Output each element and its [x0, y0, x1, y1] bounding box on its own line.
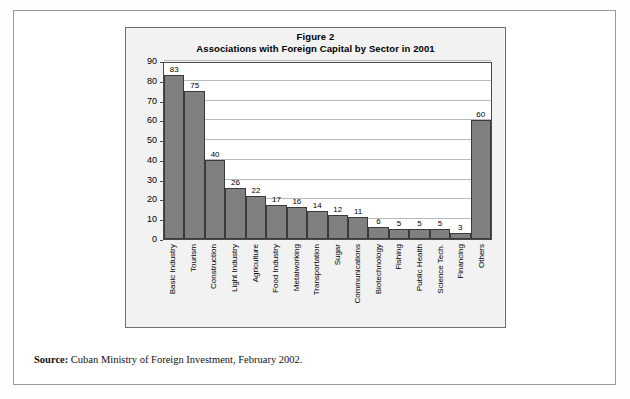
y-axis-tick-label: 50: [131, 136, 157, 145]
bar: [450, 233, 470, 239]
gridline: [164, 60, 491, 61]
bar-cell: 3: [450, 63, 470, 239]
bar: [409, 229, 429, 239]
source-note: Source: Cuban Ministry of Foreign Invest…: [34, 354, 302, 365]
bar-value-label: 60: [471, 110, 491, 119]
x-axis-labels: Basic IndustryTourismConstructionLight I…: [163, 242, 492, 330]
bar: [184, 91, 204, 239]
bar: [307, 211, 327, 239]
bar-value-label: 3: [450, 223, 470, 232]
bar: [328, 215, 348, 239]
x-axis-tick-label: Communications: [354, 244, 362, 304]
y-axis-tick-label: 70: [131, 97, 157, 106]
bar-cell: 12: [328, 63, 348, 239]
chart-subtitle: Associations with Foreign Capital by Sec…: [126, 43, 505, 55]
bar-series: 837540262217161412116555360: [164, 63, 491, 239]
x-axis-tick-label: Food Industry: [272, 244, 280, 293]
bar: [164, 75, 184, 239]
bar-cell: 11: [348, 63, 368, 239]
y-axis-tick-label: 20: [131, 195, 157, 204]
x-axis-label-cell: Basic Industry: [163, 242, 184, 330]
bar: [389, 229, 409, 239]
bar-value-label: 5: [389, 219, 409, 228]
bar-cell: 60: [471, 63, 491, 239]
y-axis-tick-label: 60: [131, 116, 157, 125]
y-axis-tick-label: 90: [131, 57, 157, 66]
bar: [246, 196, 266, 240]
x-axis-label-cell: Sugar: [328, 242, 349, 330]
x-axis-label-cell: Construction: [204, 242, 225, 330]
bar-cell: 22: [246, 63, 266, 239]
y-axis-tick-mark: [160, 240, 163, 241]
bar-value-label: 75: [184, 81, 204, 90]
source-value: Cuban Ministry of Foreign Investment, Fe…: [71, 354, 303, 365]
x-axis-label-cell: Biotechnology: [369, 242, 390, 330]
bar-cell: 6: [368, 63, 388, 239]
bar: [348, 217, 368, 239]
bar-value-label: 17: [266, 195, 286, 204]
x-axis-tick-label: Light Industry: [231, 244, 239, 292]
bar-value-label: 5: [430, 219, 450, 228]
bar-cell: 5: [430, 63, 450, 239]
x-axis-tick-label: Biotechnology: [375, 244, 383, 294]
bar-cell: 5: [409, 63, 429, 239]
x-axis-tick-label: Sugar: [334, 244, 342, 265]
x-axis-label-cell: Science Tech.: [430, 242, 451, 330]
x-axis-label-cell: Financing: [451, 242, 472, 330]
bar: [205, 160, 225, 239]
bar: [225, 188, 245, 239]
bar: [368, 227, 388, 239]
bar-cell: 5: [389, 63, 409, 239]
plot-area: 837540262217161412116555360: [163, 62, 492, 240]
x-axis-label-cell: Light Industry: [225, 242, 246, 330]
x-axis-tick-label: Science Tech.: [437, 244, 445, 294]
bar: [430, 229, 450, 239]
y-axis-tick-label: 0: [131, 235, 157, 244]
bar-value-label: 22: [246, 186, 266, 195]
bar: [287, 207, 307, 239]
page-canvas: Figure 2 Associations with Foreign Capit…: [0, 0, 630, 399]
bar-value-label: 16: [287, 197, 307, 206]
bar-cell: 83: [164, 63, 184, 239]
y-axis-tick-label: 80: [131, 77, 157, 86]
y-axis-tick-label: 10: [131, 215, 157, 224]
y-axis-tick-label: 30: [131, 176, 157, 185]
chart-title: Figure 2: [126, 31, 505, 43]
chart-title-block: Figure 2 Associations with Foreign Capit…: [126, 31, 505, 55]
bar-value-label: 26: [225, 178, 245, 187]
bar-cell: 14: [307, 63, 327, 239]
bar-value-label: 11: [348, 207, 368, 216]
bar-value-label: 14: [307, 201, 327, 210]
x-axis-label-cell: Public Health: [410, 242, 431, 330]
x-axis-label-cell: Communications: [348, 242, 369, 330]
bar-cell: 26: [225, 63, 245, 239]
x-axis-label-cell: Metalworking: [286, 242, 307, 330]
bar-value-label: 12: [328, 205, 348, 214]
x-axis-label-cell: Others: [471, 242, 492, 330]
x-axis-label-cell: Food Industry: [266, 242, 287, 330]
x-axis-label-cell: Fishing: [389, 242, 410, 330]
x-axis-tick-label: Construction: [210, 244, 218, 289]
bar-value-label: 6: [368, 217, 388, 226]
x-axis-tick-label: Transportation: [313, 244, 321, 295]
bar-cell: 40: [205, 63, 225, 239]
source-label: Source:: [34, 354, 68, 365]
bar-value-label: 5: [409, 219, 429, 228]
x-axis-tick-label: Agriculture: [252, 244, 260, 282]
bar-value-label: 83: [164, 65, 184, 74]
x-axis-label-cell: Agriculture: [245, 242, 266, 330]
bar-value-label: 40: [205, 150, 225, 159]
x-axis-tick-label: Financing: [457, 244, 465, 279]
bar-cell: 75: [184, 63, 204, 239]
x-axis-label-cell: Tourism: [184, 242, 205, 330]
bar: [266, 205, 286, 239]
x-axis-tick-label: Basic Industry: [169, 244, 177, 294]
x-axis-tick-label: Metalworking: [293, 244, 301, 291]
chart-container: Figure 2 Associations with Foreign Capit…: [125, 27, 506, 328]
x-axis-tick-label: Tourism: [190, 244, 198, 272]
bar-cell: 16: [287, 63, 307, 239]
bar: [471, 120, 491, 239]
x-axis-label-cell: Transportation: [307, 242, 328, 330]
document-frame: Figure 2 Associations with Foreign Capit…: [13, 10, 616, 385]
x-axis-tick-label: Public Health: [416, 244, 424, 291]
